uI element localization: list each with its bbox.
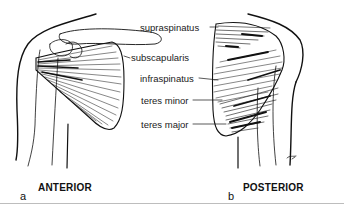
rotator-cuff-figure: supraspinatus subscapularis infraspinatu… [0, 0, 344, 216]
label-teres-major: teres major [141, 120, 189, 130]
panel-letter-b: b [228, 190, 234, 202]
panel-letter-a: a [20, 190, 26, 202]
leader-infraspinatus [199, 78, 218, 80]
view-label-posterior: POSTERIOR [243, 182, 304, 193]
subscapularis-fibers [38, 46, 121, 125]
infraspinatus-fibers [214, 50, 282, 102]
anterior-scapula [36, 42, 124, 130]
label-infraspinatus: infraspinatus [140, 74, 194, 84]
label-supraspinatus: supraspinatus [140, 23, 199, 33]
label-subscapularis: subscapularis [131, 53, 189, 63]
supraspinatus-fibers [216, 26, 270, 48]
label-teres-minor: teres minor [141, 96, 189, 106]
bottom-rule [0, 203, 344, 204]
view-label-anterior: ANTERIOR [38, 182, 92, 193]
leader-subscapularis [124, 56, 130, 58]
artist-signature [287, 156, 296, 159]
